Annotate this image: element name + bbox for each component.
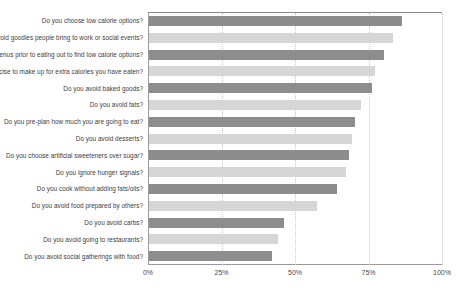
bar-row xyxy=(148,198,442,214)
bar-row xyxy=(148,30,442,46)
category-label: Do you avoid going to restaurants? xyxy=(0,236,143,244)
plot-area xyxy=(148,13,442,265)
bar[interactable] xyxy=(149,100,361,110)
bar-chart: Do you choose low calorie options?Do you… xyxy=(0,0,462,291)
category-label: Do you choose low calorie options? xyxy=(0,17,143,25)
bar[interactable] xyxy=(149,16,402,26)
bar[interactable] xyxy=(149,50,384,60)
x-tick-label: 100% xyxy=(433,269,451,276)
bar-row xyxy=(148,131,442,147)
bar-row xyxy=(148,231,442,247)
x-tick-label: 75% xyxy=(361,269,375,276)
category-label: Do you choose artificial sweeteners over… xyxy=(0,152,143,160)
gridline-100 xyxy=(442,13,443,265)
bar-row xyxy=(148,164,442,180)
bar[interactable] xyxy=(149,66,375,76)
bar[interactable] xyxy=(149,33,393,43)
bar[interactable] xyxy=(149,234,278,244)
x-tick-label: 0% xyxy=(143,269,153,276)
category-label: Do you exercise to make up for extra cal… xyxy=(0,68,143,76)
bar[interactable] xyxy=(149,167,346,177)
bar[interactable] xyxy=(149,134,352,144)
bar-row xyxy=(148,63,442,79)
bar-row xyxy=(148,97,442,113)
bar[interactable] xyxy=(149,150,349,160)
category-label: Do you avoid baked goods? xyxy=(0,85,143,93)
bar[interactable] xyxy=(149,184,337,194)
category-label: Do you avoid social gatherings with food… xyxy=(0,253,143,261)
category-label: Do you avoid fats? xyxy=(0,101,143,109)
bar-row xyxy=(148,114,442,130)
category-label: Do you pre-plan how much you are going t… xyxy=(0,118,143,126)
bar-row xyxy=(148,13,442,29)
category-label: Do you ignore hunger signals? xyxy=(0,169,143,177)
bar-row xyxy=(148,215,442,231)
x-tick-label: 50% xyxy=(288,269,302,276)
bar[interactable] xyxy=(149,83,372,93)
category-label: Do you cook without adding fats/oils? xyxy=(0,185,143,193)
category-label: Do you avoid desserts? xyxy=(0,135,143,143)
bar-row xyxy=(148,80,442,96)
x-tick-label: 25% xyxy=(214,269,228,276)
bar[interactable] xyxy=(149,251,272,261)
bar-row xyxy=(148,181,442,197)
bar-row xyxy=(148,147,442,163)
category-label: Do you avoid goodies people bring to wor… xyxy=(0,34,143,42)
bar-row xyxy=(148,47,442,63)
category-label: Do you avoid food prepared by others? xyxy=(0,202,143,210)
bar[interactable] xyxy=(149,201,317,211)
bar-row xyxy=(148,248,442,264)
bar[interactable] xyxy=(149,117,355,127)
category-label: Do you look at menus prior to eating out… xyxy=(0,51,143,59)
category-label: Do you avoid carbs? xyxy=(0,219,143,227)
bar[interactable] xyxy=(149,218,284,228)
